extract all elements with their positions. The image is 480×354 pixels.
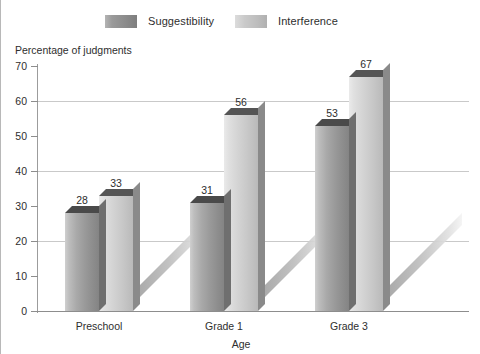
bar-front-face — [65, 213, 99, 311]
bar-side-face — [383, 63, 390, 311]
x-tick-label-grade3: Grade 3 — [304, 320, 394, 332]
y-tick-0 — [31, 311, 38, 312]
y-tick-label-30: 30 — [5, 200, 27, 212]
bar-value-grade3-interference: 67 — [351, 58, 381, 70]
y-tick-label-70: 70 — [5, 60, 27, 72]
x-tick-label-preschool: Preschool — [54, 320, 144, 332]
y-tick-label-60: 60 — [5, 95, 27, 107]
y-tick-40 — [31, 171, 38, 172]
bar-side-face — [224, 189, 231, 311]
y-tick-30 — [31, 206, 38, 207]
y-tick-label-50: 50 — [5, 130, 27, 142]
bar-value-grade3-suggestibility: 53 — [317, 107, 347, 119]
bar-side-face — [258, 101, 265, 311]
y-tick-70 — [31, 66, 38, 67]
x-tick-label-grade1: Grade 1 — [179, 320, 269, 332]
chart-figure: Suggestibility Interference Percentage o… — [0, 0, 480, 354]
y-tick-50 — [31, 136, 38, 137]
y-tick-20 — [31, 241, 38, 242]
y-tick-60 — [31, 101, 38, 102]
y-tick-label-40: 40 — [5, 165, 27, 177]
bar-preschool-suggestibility[interactable] — [65, 213, 99, 311]
y-tick-label-0: 0 — [5, 305, 27, 317]
plot-area: 70 60 50 40 30 20 10 0 28 33 — [1, 0, 480, 354]
bar-value-grade1-interference: 56 — [226, 96, 256, 108]
x-axis-line — [37, 311, 469, 312]
bar-front-face — [190, 203, 224, 311]
bar-value-grade1-suggestibility: 31 — [192, 184, 222, 196]
y-tick-label-10: 10 — [5, 270, 27, 282]
bar-side-face — [349, 112, 356, 311]
bar-value-preschool-interference: 33 — [101, 177, 131, 189]
bar-value-preschool-suggestibility: 28 — [67, 194, 97, 206]
bar-side-face — [133, 182, 140, 311]
group-shadow-grade3 — [382, 213, 462, 305]
bar-grade3-suggestibility[interactable] — [315, 126, 349, 311]
y-tick-label-20: 20 — [5, 235, 27, 247]
bar-grade1-suggestibility[interactable] — [190, 203, 224, 311]
bar-side-face — [99, 199, 106, 311]
x-axis-title: Age — [1, 338, 480, 350]
y-tick-10 — [31, 276, 38, 277]
bar-front-face — [315, 126, 349, 311]
